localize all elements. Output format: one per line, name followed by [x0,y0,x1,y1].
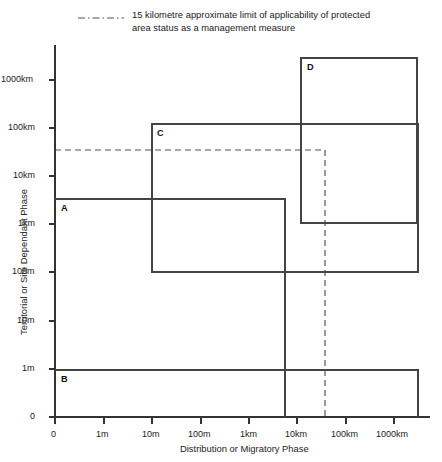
chart-figure: 15 kilometre approximate limit of applic… [0,0,442,462]
x-tick-10m: 10m [142,429,160,439]
box-d-outline [301,58,417,223]
box-label-d: D [307,62,314,72]
x-tick-100m: 100m [188,429,211,439]
y-axis-label: Territorial or Site Dependant Phase [18,189,29,335]
x-tick-10km: 10km [285,429,307,439]
y-tick-100km: 100km [8,122,35,132]
x-tick-100km: 100km [331,429,358,439]
y-tick-0: 0 [30,411,35,421]
box-a-outline [55,199,285,417]
plot-canvas [0,0,442,462]
x-tick-1m: 1m [96,429,109,439]
x-axis-ticks [55,417,394,424]
y-tick-1000km: 1000km [1,74,33,84]
box-b-outline [55,370,418,417]
y-tick-10km: 10km [13,170,35,180]
x-axis-label: Distribution or Migratory Phase [180,443,309,454]
box-label-b: B [61,374,68,384]
x-tick-1km: 1km [240,429,257,439]
y-tick-1m: 1m [22,363,35,373]
x-tick-0: 0 [51,429,56,439]
x-tick-1000km: 1000km [376,429,408,439]
box-label-c: C [157,128,164,138]
y-axis-ticks [49,80,55,417]
box-label-a: A [61,203,68,213]
